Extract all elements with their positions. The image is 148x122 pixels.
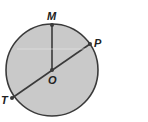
circle-diagram: M P O T [0, 0, 148, 122]
label-m: M [47, 10, 57, 22]
label-o: O [48, 74, 57, 86]
label-t: T [1, 94, 9, 106]
point-m [50, 23, 54, 27]
point-o [50, 68, 54, 72]
point-p [88, 42, 92, 46]
label-p: P [94, 37, 102, 49]
point-t [10, 96, 14, 100]
